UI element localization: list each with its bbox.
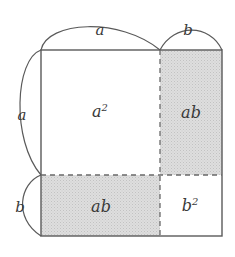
region-label-bottom-right-base: b: [182, 196, 192, 215]
region-label-bottom-left: ab: [91, 199, 111, 215]
brace-left-b: [23, 175, 41, 236]
binomial-square-figure: a b a b a2 ab ab b2: [0, 0, 235, 257]
region-label-top-left: a2: [92, 104, 108, 120]
region-label-bottom-left-base: ab: [91, 197, 111, 216]
region-label-bottom-right-exponent: 2: [192, 196, 198, 207]
figure-canvas: [0, 0, 235, 257]
dimension-label-left-b: b: [15, 200, 25, 215]
region-label-top-right: ab: [181, 105, 201, 121]
dimension-label-top-a: a: [96, 23, 105, 38]
dimension-label-left-a: a: [18, 108, 27, 123]
dimension-label-top-b: b: [183, 23, 193, 38]
region-label-top-left-base: a: [92, 102, 102, 121]
region-label-bottom-right: b2: [182, 198, 199, 214]
region-label-top-right-base: ab: [181, 103, 201, 122]
region-label-top-left-exponent: 2: [102, 102, 108, 113]
